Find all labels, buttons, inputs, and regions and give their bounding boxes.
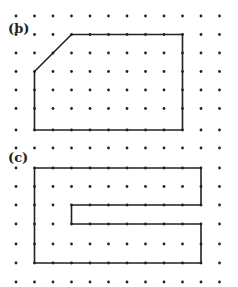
grid-dot: [181, 147, 184, 150]
grid-dot: [126, 70, 129, 73]
grid-dot: [15, 89, 18, 92]
grid-dot: [15, 262, 18, 265]
label-c: (c): [8, 150, 28, 165]
grid-dot: [144, 107, 147, 110]
grid-dot: [163, 185, 166, 188]
grid-dot: [52, 185, 55, 188]
grid-dot: [181, 243, 184, 246]
polygon-outline: [35, 168, 202, 263]
grid-dot: [218, 281, 221, 284]
grid-dot: [15, 281, 18, 284]
grid-dot: [144, 70, 147, 73]
grid-dot: [70, 243, 73, 246]
grid-dot: [52, 223, 55, 226]
grid-dot: [70, 89, 73, 92]
grid-dot: [126, 107, 129, 110]
grid-dot: [15, 185, 18, 188]
grid-dot: [144, 15, 147, 18]
grid-dot: [163, 281, 166, 284]
grid-dot: [89, 107, 92, 110]
grid-dot: [218, 147, 221, 150]
grid-dot: [107, 185, 110, 188]
grid-dot: [163, 89, 166, 92]
grid-dot: [144, 147, 147, 150]
grid-dot: [218, 243, 221, 246]
grid-dot: [15, 129, 18, 132]
grid-dot: [52, 147, 55, 150]
grid-dot: [144, 281, 147, 284]
grid-dot: [107, 147, 110, 150]
grid-dot: [89, 281, 92, 284]
grid-dot: [52, 70, 55, 73]
polygon-outline: [35, 35, 183, 131]
grid-dot: [15, 223, 18, 226]
grid-dot: [218, 262, 221, 265]
grid-dot: [52, 243, 55, 246]
grid-dot: [107, 89, 110, 92]
grid-dot: [163, 107, 166, 110]
grid-dot: [107, 15, 110, 18]
grid-dot: [15, 147, 18, 150]
grid-dot: [107, 107, 110, 110]
label-b: (b): [8, 21, 29, 36]
grid-dot: [15, 243, 18, 246]
grid-dot: [218, 33, 221, 36]
grid-dot: [181, 185, 184, 188]
grid-dot: [144, 243, 147, 246]
grid-dot: [163, 70, 166, 73]
polygon-b: [35, 35, 183, 131]
grid-dot: [70, 107, 73, 110]
grid-dot: [200, 129, 203, 132]
grid-dot: [126, 147, 129, 150]
grid-dot: [126, 52, 129, 55]
grid-dot: [218, 70, 221, 73]
grid-dot: [218, 52, 221, 55]
grid-dot: [200, 89, 203, 92]
grid-dot: [126, 185, 129, 188]
grid-dot: [218, 185, 221, 188]
grid-dot: [89, 15, 92, 18]
grid-dot: [33, 33, 36, 36]
grid-dot: [15, 52, 18, 55]
grid-dot: [144, 185, 147, 188]
grid-dot: [15, 15, 18, 18]
grid-dot: [70, 70, 73, 73]
grid-dot: [218, 223, 221, 226]
grid-dot: [200, 15, 203, 18]
grid-dot: [89, 243, 92, 246]
grid-dot: [70, 185, 73, 188]
grid-dot: [126, 15, 129, 18]
grid-dot: [163, 243, 166, 246]
grid-dot: [89, 147, 92, 150]
grid-dot: [89, 52, 92, 55]
grid-dot: [52, 89, 55, 92]
grid-dot: [200, 70, 203, 73]
grid-dot: [218, 167, 221, 170]
grid-dot: [15, 167, 18, 170]
grid-dot: [218, 15, 221, 18]
grid-dot: [218, 107, 221, 110]
grid-dot: [218, 89, 221, 92]
grid-dot: [200, 147, 203, 150]
grid-dot: [52, 15, 55, 18]
grid-dot: [33, 147, 36, 150]
grid-dot: [33, 52, 36, 55]
grid-dot: [70, 15, 73, 18]
polygon-c: [35, 168, 202, 263]
grid-dot: [144, 52, 147, 55]
grid-dot: [163, 15, 166, 18]
grid-dot: [89, 89, 92, 92]
grid-dot: [89, 70, 92, 73]
grid-dot: [52, 107, 55, 110]
grid-dot: [181, 281, 184, 284]
grid-dot: [163, 52, 166, 55]
grid-dot: [107, 281, 110, 284]
grid-dot: [107, 243, 110, 246]
grid-dot: [70, 147, 73, 150]
dot-grid-figure: (b) (c): [0, 0, 238, 287]
grid-dot: [218, 129, 221, 132]
grid-dot: [33, 281, 36, 284]
grid-dot: [200, 107, 203, 110]
grid-dot: [126, 243, 129, 246]
grid-dot: [15, 70, 18, 73]
